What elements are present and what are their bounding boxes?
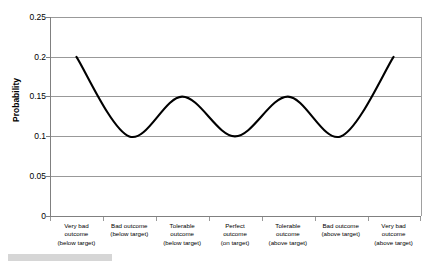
x-label-perfect-on-target: Perfect outcome (on target): [209, 222, 262, 262]
x-label-line: (below target): [104, 230, 155, 238]
x-label-line: Tolerable: [262, 222, 313, 230]
x-label-line: (below target): [157, 239, 208, 247]
x-label-very-bad-above: Very bad outcome (above target): [367, 222, 420, 262]
x-label-line: outcome: [157, 230, 208, 238]
footer-gray-bar: [8, 254, 112, 261]
x-label-line: Very bad: [368, 222, 419, 230]
x-label-line: outcome: [262, 230, 313, 238]
x-label-line: Tolerable: [157, 222, 208, 230]
x-label-tolerable-below: Tolerable outcome (below target): [156, 222, 209, 262]
x-label-line: Perfect: [210, 222, 261, 230]
x-label-bad-above: Bad outcome (above target): [314, 222, 367, 262]
x-label-line: Bad outcome: [315, 222, 366, 230]
x-label-line: outcome: [368, 230, 419, 238]
x-label-line: (below target): [51, 239, 102, 247]
x-label-line: (above target): [368, 239, 419, 247]
x-label-line: Bad outcome: [104, 222, 155, 230]
x-label-line: Very bad: [51, 222, 102, 230]
probability-distribution-chart: Probability 0.25 0.2 0.15 0.1 0.05 0 Ver…: [0, 0, 428, 265]
x-label-line: outcome: [51, 230, 102, 238]
x-label-line: (above target): [315, 230, 366, 238]
x-label-line: (on target): [210, 239, 261, 247]
x-label-line: outcome: [210, 230, 261, 238]
x-label-tolerable-above: Tolerable outcome (above target): [261, 222, 314, 262]
x-label-line: (above target): [262, 239, 313, 247]
